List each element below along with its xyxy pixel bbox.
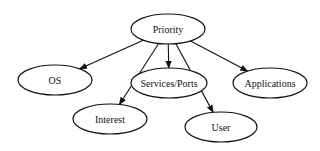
priority-diagram: PriorityOSServices/PortsApplicationsInte… [0, 0, 320, 151]
node-user: User [185, 112, 257, 142]
node-label: Priority [153, 24, 184, 35]
node-os: OS [18, 65, 92, 95]
node-interest: Interest [73, 104, 147, 134]
node-label: Services/Ports [140, 78, 197, 89]
nodes-layer: PriorityOSServices/PortsApplicationsInte… [18, 14, 307, 142]
arrow-line [190, 41, 247, 71]
edge-priority-to-os [80, 40, 144, 69]
node-applications: Applications [233, 68, 307, 98]
node-label: Interest [95, 114, 125, 125]
node-services: Services/Ports [131, 68, 207, 98]
node-label: User [212, 122, 232, 133]
node-label: OS [49, 75, 62, 86]
node-label: Applications [244, 78, 295, 89]
edge-priority-to-applications [190, 41, 247, 71]
arrow-line [80, 40, 144, 69]
node-priority: Priority [131, 14, 205, 44]
